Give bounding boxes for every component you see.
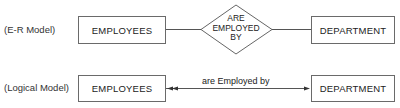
entity-name: EMPLOYEES xyxy=(92,25,152,36)
logical-entity-employees: EMPLOYEES xyxy=(78,75,166,102)
entity-name: DEPARTMENT xyxy=(320,25,387,36)
entity-name: DEPARTMENT xyxy=(320,83,387,94)
logical-model-label: (Logical Model) xyxy=(4,82,69,93)
er-entity-employees: EMPLOYEES xyxy=(78,16,166,44)
er-model-label: (E-R Model) xyxy=(4,24,55,35)
entity-name: EMPLOYEES xyxy=(92,83,152,94)
relationship-label: are Employed by xyxy=(202,76,270,86)
single-arrowhead-icon xyxy=(304,87,310,91)
logical-entity-department: DEPARTMENT xyxy=(311,75,395,102)
relationship-line-3: BY xyxy=(206,33,266,43)
er-entity-department: DEPARTMENT xyxy=(311,16,395,44)
relationship-text: ARE EMPLOYED BY xyxy=(206,14,266,43)
